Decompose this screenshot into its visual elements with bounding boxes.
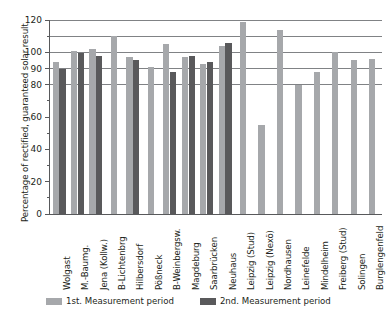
bar-series-2	[78, 53, 84, 214]
bar-series-2	[96, 56, 102, 214]
y-axis-minor-tick	[47, 133, 49, 134]
plot-area	[49, 20, 382, 215]
x-axis-label: Jena (Kollw.)	[99, 239, 109, 290]
legend-label-series-1: 1st. Measurement period	[66, 296, 174, 306]
bar-series-1	[277, 30, 283, 214]
y-axis-tick-label: 20	[0, 177, 42, 187]
bar-series-1	[163, 44, 169, 214]
x-axis-label: Leinefelde	[301, 247, 311, 291]
bar-series-1	[295, 85, 301, 214]
x-axis-label: Saarbrücken	[209, 237, 219, 290]
y-axis-tick	[45, 117, 49, 118]
y-axis-tick	[45, 52, 49, 53]
y-axis-tick-label: 80	[0, 80, 42, 90]
bar-series-1	[182, 57, 188, 214]
x-axis-label: Neuhaus	[228, 253, 238, 290]
gridline	[50, 20, 382, 21]
x-axis-label: B-Lichtenbrg	[117, 236, 127, 290]
x-axis-label: Pößneck	[154, 255, 164, 290]
y-axis-tick	[45, 149, 49, 150]
y-axis-tick-label: 120	[0, 15, 42, 25]
y-axis-tick	[45, 68, 49, 69]
y-axis-minor-tick	[47, 197, 49, 198]
x-axis-label: Leipzig (Stud)	[246, 232, 256, 290]
x-axis-labels: WolgastM.-Baumg.Jena (Kollw.)B-Lichtenbr…	[49, 216, 381, 292]
bar-series-1	[314, 72, 320, 214]
bar-series-1	[240, 22, 246, 214]
x-axis-label: Leipzig (Nexö)	[265, 230, 275, 290]
bar-series-1	[111, 36, 117, 214]
y-axis-minor-tick	[47, 100, 49, 101]
bar-series-1	[126, 57, 132, 214]
y-axis-tick	[45, 214, 49, 215]
chart-legend: 1st. Measurement period 2nd. Measurement…	[46, 294, 331, 308]
y-axis-tick-label: 60	[0, 112, 42, 122]
x-axis-label: Freiberg (Stud)	[338, 227, 348, 290]
y-axis-tick	[45, 84, 49, 85]
legend-label-series-2: 2nd. Measurement period	[220, 296, 331, 306]
bar-series-2	[170, 72, 176, 214]
y-axis-tick	[45, 181, 49, 182]
x-axis-label: Hilbersdorf	[135, 244, 145, 290]
legend-swatch-series-2	[200, 298, 216, 305]
legend-entry-1: 1st. Measurement period	[46, 296, 174, 306]
x-axis-label: B-Weinbergsw.	[172, 229, 182, 291]
y-axis-tick-label: 0	[0, 209, 42, 219]
plot-inner	[50, 20, 382, 214]
y-axis-tick-label: 90	[0, 64, 42, 74]
legend-swatch-series-1	[46, 298, 62, 305]
bar-series-1	[200, 64, 206, 214]
bar-series-1	[71, 51, 77, 214]
x-axis-label: Wolgast	[62, 256, 72, 290]
x-axis-label: Mindelheim	[320, 241, 330, 290]
bar-series-2	[225, 43, 231, 214]
y-axis-tick-label: 40	[0, 144, 42, 154]
bar-series-2	[59, 69, 65, 215]
bar-series-1	[351, 60, 357, 214]
bar-series-1	[89, 49, 95, 214]
x-axis-label: Solingen	[357, 254, 367, 290]
bar-series-2	[207, 62, 213, 214]
bar-series-2	[189, 56, 195, 214]
bar-series-1	[219, 46, 225, 214]
bar-series-2	[133, 60, 139, 214]
bar-series-1	[258, 125, 264, 214]
bar-series-1	[53, 62, 59, 214]
solar-result-bar-chart: Percentage of rectified, guaranteed sola…	[0, 0, 388, 314]
bar-series-1	[332, 52, 338, 214]
x-axis-label: Magdeburg	[191, 242, 201, 290]
gridline	[50, 36, 382, 37]
y-axis-tick-label: 100	[0, 47, 42, 57]
y-axis-minor-tick	[47, 36, 49, 37]
y-axis-minor-tick	[47, 165, 49, 166]
x-axis-label: Nordhausen	[283, 239, 293, 290]
bar-series-1	[148, 67, 154, 214]
bar-series-1	[369, 59, 375, 214]
x-axis-label: M.-Baumg.	[80, 245, 90, 290]
y-axis-tick	[45, 20, 49, 21]
x-axis-label: Burglengenfeld	[375, 226, 385, 290]
legend-entry-2: 2nd. Measurement period	[200, 296, 331, 306]
